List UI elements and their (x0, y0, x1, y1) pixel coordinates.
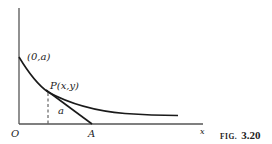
point-p-label: P(x,y) (50, 81, 79, 91)
caption-number: 3.20 (241, 129, 260, 141)
segment-a-label: a (58, 106, 64, 116)
y-intercept-label: (0,a) (27, 52, 50, 62)
origin-label: O (11, 129, 19, 139)
caption-word: FIG. (220, 132, 237, 141)
figure-caption: FIG. 3.20 (220, 126, 260, 142)
point-a-label: A (88, 129, 95, 139)
x-axis-label: x (200, 128, 205, 136)
tractrix-curve (19, 57, 178, 116)
tractrix-diagram (0, 0, 272, 144)
